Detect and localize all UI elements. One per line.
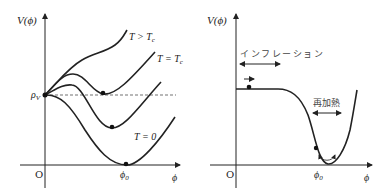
- minimum-dot-T-zero: [124, 162, 129, 167]
- minimum-dot-intermediate: [110, 125, 115, 130]
- inflation-label: インフレーション: [240, 49, 324, 59]
- right-y-axis-label: V(ϕ): [207, 14, 227, 27]
- right-phi0-label: ϕ0: [314, 169, 323, 182]
- minimum-dot-Tc: [101, 91, 106, 96]
- left-phi0-label: ϕ0: [120, 169, 129, 182]
- right-origin-label: O: [226, 169, 234, 180]
- curve-T-equals-Tc: [45, 52, 155, 95]
- oscillation-dot: [314, 146, 318, 150]
- inflaton-dot: [247, 85, 252, 90]
- right-x-axis-label: ϕ: [364, 172, 369, 183]
- curve-intermediate-T: [45, 82, 161, 128]
- left-origin-label: O: [35, 169, 43, 180]
- rhoV-label: ρV: [30, 89, 41, 102]
- reheating-label: 再加熱: [313, 97, 340, 108]
- left-x-axis-label: ϕ: [172, 172, 177, 183]
- label-T-zero: T = 0: [134, 131, 156, 142]
- curve-T-greater-than-Tc: [45, 30, 127, 95]
- left-y-axis-label: V(ϕ): [17, 14, 37, 27]
- left-panel: V(ϕ) O ϕ ρV ϕ0 T > Tc T = Tc T = 0: [17, 14, 184, 188]
- curve-T-zero: [45, 95, 175, 165]
- label-T-greater-than-Tc: T > Tc: [129, 31, 156, 44]
- label-T-equals-Tc: T = Tc: [157, 53, 184, 66]
- right-panel: V(ϕ) O ϕ ϕ0 インフレーション 再加熱: [207, 14, 372, 188]
- left-rhoV-dot: [43, 93, 48, 98]
- diagram-canvas: V(ϕ) O ϕ ρV ϕ0 T > Tc T = Tc T = 0 V(ϕ) …: [0, 0, 386, 192]
